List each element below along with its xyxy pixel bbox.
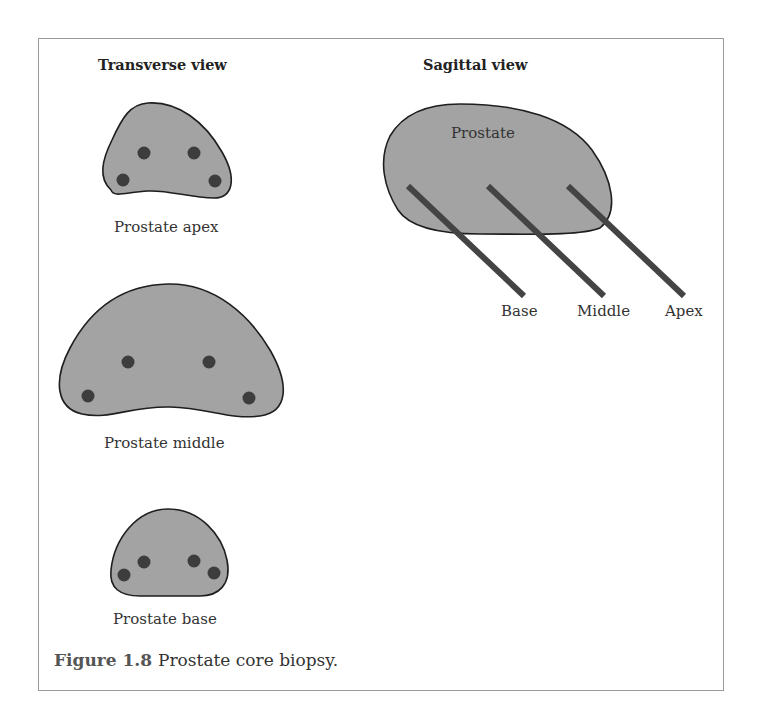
core-dot	[188, 555, 201, 568]
caption-text: Prostate core biopsy.	[158, 650, 338, 670]
core-dot	[117, 174, 130, 187]
core-dot	[209, 175, 222, 188]
core-dot	[122, 356, 135, 369]
core-dot	[82, 390, 95, 403]
core-dot	[243, 392, 256, 405]
label-needle-apex: Apex	[665, 302, 703, 320]
transverse-base-shape	[111, 509, 228, 596]
transverse-apex-shape	[103, 103, 232, 198]
label-prostate-base: Prostate base	[113, 610, 217, 628]
core-dot	[188, 147, 201, 160]
core-dot	[138, 147, 151, 160]
core-dot	[208, 567, 221, 580]
label-prostate-middle: Prostate middle	[104, 434, 225, 452]
transverse-middle-shape	[59, 284, 283, 417]
label-prostate-organ: Prostate	[451, 124, 515, 142]
label-prostate-apex: Prostate apex	[114, 218, 219, 236]
core-dot	[118, 569, 131, 582]
figure-caption: Figure 1.8Prostate core biopsy.	[54, 650, 338, 670]
biopsy-diagram	[0, 0, 757, 714]
core-dot	[138, 556, 151, 569]
core-dot	[203, 356, 216, 369]
sagittal-view-heading: Sagittal view	[423, 56, 528, 73]
label-needle-base: Base	[501, 302, 538, 320]
figure-number: Figure 1.8	[54, 650, 152, 670]
label-needle-middle: Middle	[577, 302, 630, 320]
transverse-view-heading: Transverse view	[98, 56, 227, 73]
